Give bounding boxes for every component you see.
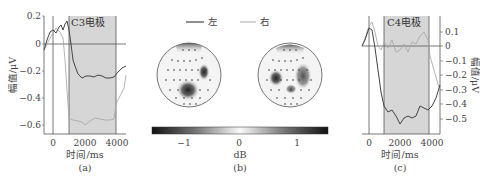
y-axis-label: 幅值/μV: [470, 57, 480, 93]
topomap-left: [157, 43, 221, 107]
caption-c: (c): [394, 162, 407, 173]
svg-text:−0.6: −0.6: [19, 120, 41, 130]
svg-text:−0.1: −0.1: [445, 56, 467, 66]
svg-text:−0.4: −0.4: [19, 93, 41, 103]
svg-text:−0.5: −0.5: [445, 114, 467, 124]
svg-text:2000: 2000: [74, 138, 97, 148]
svg-text:0: 0: [35, 39, 41, 49]
topomap-right: [258, 43, 322, 107]
caption-b: (b): [233, 162, 247, 173]
svg-text:1: 1: [294, 138, 300, 148]
svg-text:−0.2: −0.2: [19, 66, 41, 76]
svg-text:4000: 4000: [421, 138, 444, 148]
colorbar: −1 0 1 dB: [152, 127, 328, 160]
svg-text:−0.2: −0.2: [445, 70, 467, 80]
shaded-region: [69, 16, 116, 134]
panel-a-chart: 0.2 0 −0.2 −0.4 −0.6 0 2000 4000 时间/ms (…: [7, 11, 129, 173]
legend-label-right: 右: [260, 16, 270, 27]
x-axis-label: 时间/ms: [381, 149, 418, 160]
legend-label-left: 左: [208, 16, 218, 27]
svg-text:0: 0: [445, 41, 451, 51]
x-axis-label: 时间/ms: [66, 149, 103, 160]
plot-title-c4: C4电极: [387, 16, 421, 28]
svg-text:0.2: 0.2: [27, 11, 41, 21]
plot-title-c3: C3电极: [71, 16, 105, 28]
legend: 左 右: [186, 16, 270, 27]
svg-text:−0.4: −0.4: [445, 99, 467, 109]
svg-text:0: 0: [50, 138, 56, 148]
svg-text:0: 0: [236, 138, 242, 148]
svg-text:0: 0: [366, 138, 372, 148]
svg-text:−1: −1: [177, 138, 190, 148]
svg-text:2000: 2000: [389, 138, 412, 148]
panel-c-chart: 0.1 0 −0.1 −0.2 −0.3 −0.4 −0.5 0 2000 40…: [362, 16, 480, 173]
svg-text:0.1: 0.1: [445, 27, 459, 37]
colorbar-label: dB: [233, 149, 246, 160]
caption-a: (a): [78, 162, 91, 173]
figure: 0.2 0 −0.2 −0.4 −0.6 0 2000 4000 时间/ms (…: [0, 0, 480, 180]
y-axis-label: 幅值/μV: [7, 57, 18, 93]
svg-text:4000: 4000: [106, 138, 129, 148]
svg-text:−0.3: −0.3: [445, 85, 467, 95]
